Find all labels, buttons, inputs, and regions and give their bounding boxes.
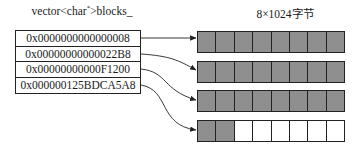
arrow-2 [141,54,196,70]
arrow-3 [141,69,196,100]
pointer-arrows [0,0,359,153]
arrow-4 [141,85,196,130]
